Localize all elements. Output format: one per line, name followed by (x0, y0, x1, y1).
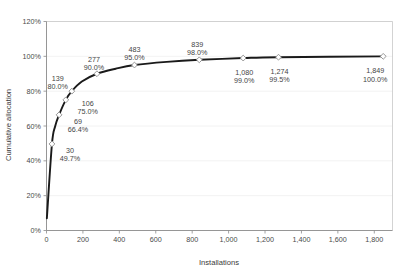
label-percent: 99.0% (234, 76, 255, 85)
y-tick-label: 100% (23, 52, 42, 61)
x-tick-label: 1,200 (256, 235, 274, 244)
y-tick-label: 20% (27, 191, 42, 200)
x-tick-label: 1,600 (329, 235, 347, 244)
label-percent: 95.0% (124, 53, 145, 62)
x-tick-label: 0 (45, 235, 49, 244)
data-point-label: 1,27499.5% (269, 67, 290, 84)
x-tick-label: 200 (77, 235, 89, 244)
label-percent: 75.0% (78, 107, 99, 116)
x-tick-label: 400 (113, 235, 125, 244)
label-percent: 99.5% (269, 75, 290, 84)
y-tick-label: 80% (27, 87, 42, 96)
label-percent: 80.0% (48, 82, 69, 91)
x-tick-label: 1,000 (220, 235, 238, 244)
chart-container: 02004006008001,0001,2001,4001,6001,800 0… (0, 0, 416, 271)
y-tick-label: 60% (27, 122, 42, 131)
label-percent: 66.4% (68, 125, 89, 134)
label-percent: 90.0% (84, 63, 105, 72)
label-percent: 100.0% (363, 75, 388, 84)
data-point-label: 1,08099.0% (234, 68, 255, 85)
x-tick-label: 600 (150, 235, 162, 244)
y-tick-label: 120% (23, 17, 42, 26)
y-tick-label: 40% (27, 156, 42, 165)
y-axis-title: Cumulative allocation (4, 89, 13, 161)
cumulative-allocation-line-chart: 02004006008001,0001,2001,4001,6001,800 0… (0, 0, 416, 271)
label-percent: 98.0% (187, 48, 208, 57)
x-tick-label: 1,800 (365, 235, 383, 244)
x-tick-label: 800 (186, 235, 198, 244)
y-tick-label: 0% (31, 226, 42, 235)
label-percent: 49.7% (60, 154, 81, 163)
x-axis-title: Installations (199, 258, 239, 267)
x-tick-label: 1,400 (292, 235, 310, 244)
